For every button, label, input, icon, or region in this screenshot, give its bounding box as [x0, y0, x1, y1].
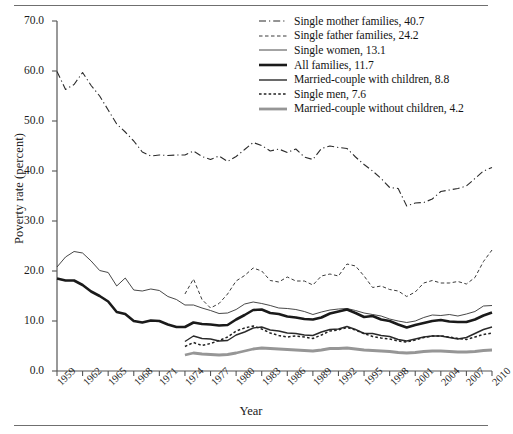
legend-item: Single mother families, 40.7 — [258, 14, 498, 29]
legend-line-swatch-icon — [258, 59, 288, 71]
legend-label: Single women, 13.1 — [294, 44, 386, 57]
legend-line-swatch-icon — [258, 15, 288, 27]
series-line-3 — [57, 279, 492, 328]
legend-line-swatch-icon — [258, 74, 288, 86]
y-tick-label: 10.0 — [0, 314, 44, 326]
chart-legend: Single mother families, 40.7Single fathe… — [258, 14, 498, 116]
y-tick-label: 70.0 — [0, 14, 44, 26]
legend-item: Married-couple with children, 8.8 — [258, 72, 498, 87]
legend-label: Single men, 7.6 — [294, 88, 366, 101]
x-axis-title: Year — [0, 404, 502, 419]
legend-label: Married-couple without children, 4.2 — [294, 102, 464, 115]
poverty-rate-line-chart: Poverty rate (percent) Year 0.010.020.03… — [0, 6, 502, 424]
legend-line-swatch-icon — [258, 103, 288, 115]
y-tick-label: 60.0 — [0, 64, 44, 76]
y-tick-label: 50.0 — [0, 114, 44, 126]
legend-item: Single women, 13.1 — [258, 43, 498, 58]
legend-item: All families, 11.7 — [258, 58, 498, 73]
legend-label: Single father families, 24.2 — [294, 29, 419, 42]
y-tick-label: 40.0 — [0, 164, 44, 176]
y-tick-label: 20.0 — [0, 264, 44, 276]
series-line-2 — [57, 252, 492, 323]
legend-line-swatch-icon — [258, 30, 288, 42]
legend-item: Married-couple without children, 4.2 — [258, 102, 498, 117]
y-tick-label: 0.0 — [0, 364, 44, 376]
bottom-divider-rule — [14, 425, 488, 426]
legend-line-swatch-icon — [258, 44, 288, 56]
legend-item: Single men, 7.6 — [258, 87, 498, 102]
y-axis-title: Poverty rate (percent) — [12, 109, 27, 269]
legend-line-swatch-icon — [258, 88, 288, 100]
legend-label: All families, 11.7 — [294, 59, 374, 72]
legend-label: Married-couple with children, 8.8 — [294, 73, 449, 86]
series-line-1 — [185, 250, 492, 308]
legend-item: Single father families, 24.2 — [258, 29, 498, 44]
legend-label: Single mother families, 40.7 — [294, 15, 424, 28]
series-line-6 — [185, 348, 492, 355]
y-tick-label: 30.0 — [0, 214, 44, 226]
